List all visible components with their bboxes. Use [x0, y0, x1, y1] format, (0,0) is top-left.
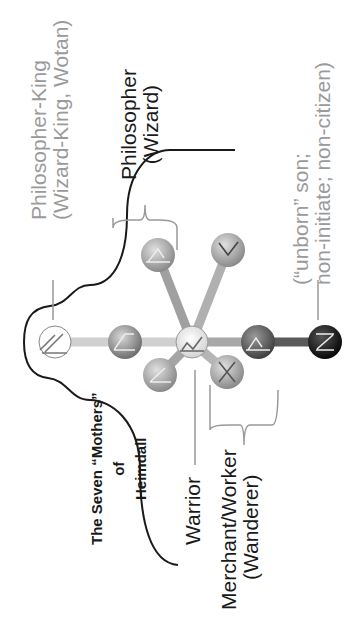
philosopher-king-label: Philosopher-King (Wizard-King, Wotan) — [28, 20, 72, 220]
node-upper-left-arm — [141, 238, 175, 272]
node-center — [176, 326, 208, 358]
philosopher-label: Philosopher (Wizard) — [118, 69, 162, 180]
node-root — [308, 325, 342, 359]
warrior-label: Warrior — [182, 477, 204, 545]
node-upper-right-arm — [211, 233, 245, 267]
node-upper-spine — [108, 325, 142, 359]
diagram-title: The Seven “Mothers” of Heimdall — [86, 392, 151, 545]
unborn-label: (“unborn” son; non-initiate; non-citizen… — [290, 62, 334, 285]
node-lower-spine — [241, 325, 275, 359]
merchant-label: Merchant/Worker (Wanderer) — [218, 449, 262, 610]
node-lower-right-arm — [210, 355, 244, 389]
node-head — [39, 326, 71, 358]
merchant-bracket — [210, 385, 278, 445]
node-lower-left-arm — [143, 358, 177, 392]
